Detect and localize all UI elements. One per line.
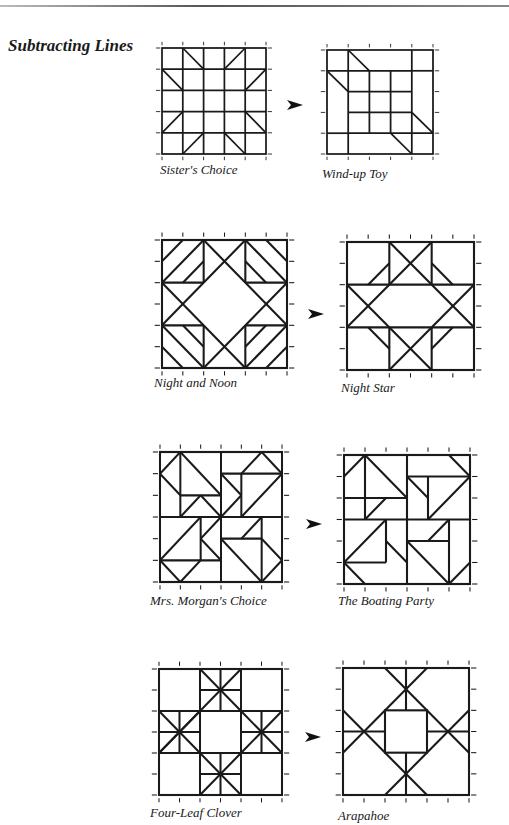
caption-night-and-noon: Night and Noon — [154, 375, 237, 391]
quilt-block-wind-up-toy — [327, 50, 433, 154]
caption-arapahoe: Arapahoe — [338, 808, 389, 824]
caption-wind-up-toy: Wind-up Toy — [322, 166, 388, 182]
section-title: Subtracting Lines — [8, 36, 133, 56]
caption-night-star: Night Star — [341, 380, 395, 396]
quilt-block-night-and-noon — [162, 240, 287, 368]
quilt-block-the-boating-party — [344, 455, 470, 584]
quilt-block-four-leaf-clover — [159, 669, 282, 795]
caption-sisters-choice: Sister's Choice — [160, 162, 238, 178]
arrow-right-icon — [305, 728, 321, 746]
caption-four-leaf-clover: Four-Leaf Clover — [150, 805, 242, 821]
caption-the-boating-party: The Boating Party — [338, 593, 434, 609]
quilt-block-mrs-morgans-choice — [160, 452, 282, 582]
quilt-block-sisters-choice — [162, 48, 266, 154]
caption-mrs-morgans-choice: Mrs. Morgan's Choice — [150, 593, 267, 609]
arrow-right-icon — [308, 305, 324, 323]
quilt-block-arapahoe — [343, 668, 469, 795]
arrow-right-icon — [287, 96, 303, 114]
arrow-right-icon — [306, 515, 322, 533]
quilt-block-night-star — [347, 242, 474, 370]
top-rule — [0, 5, 509, 7]
